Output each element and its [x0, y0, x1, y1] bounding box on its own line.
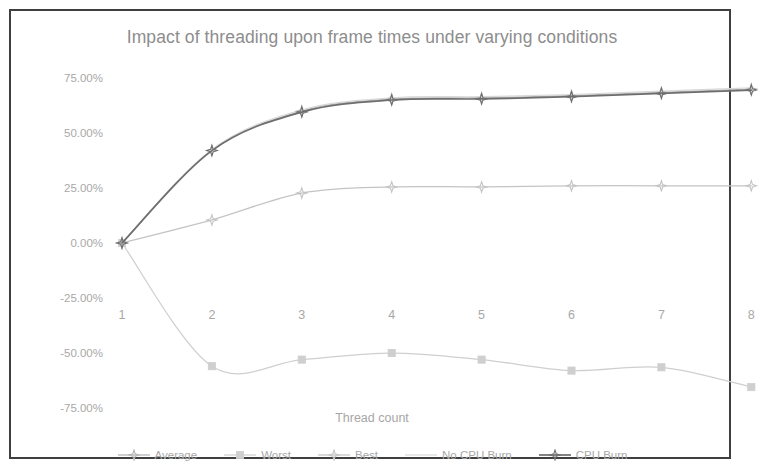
y-axis-tick-label: 50.00% — [47, 127, 103, 139]
page-bottom-strip — [0, 462, 741, 476]
x-axis-tick-label: 1 — [108, 308, 136, 322]
legend-swatch-icon — [223, 449, 257, 461]
x-axis-tick-labels: 12345678 — [111, 308, 731, 328]
y-axis-tick-label: -50.00% — [47, 347, 103, 359]
series-line — [117, 181, 757, 249]
data-point-marker — [568, 367, 575, 374]
legend-label: CPU Burn — [576, 449, 628, 461]
chart-frame: Impact of threading upon frame times und… — [9, 9, 731, 459]
legend-label: Best — [355, 449, 378, 461]
legend-item-cpu-burn[interactable]: CPU Burn — [538, 449, 628, 461]
y-axis-tick-labels: 75.00%50.00%25.00%0.00%-25.00%-50.00%-75… — [41, 11, 103, 476]
legend-item-no-cpu-burn[interactable]: No CPU Burn — [404, 449, 512, 461]
legend-swatch-icon — [317, 449, 351, 461]
legend-swatch-icon — [404, 449, 438, 461]
data-point-marker — [658, 364, 665, 371]
data-point-marker — [388, 349, 395, 356]
legend-item-worst[interactable]: Worst — [223, 449, 291, 461]
legend-swatch-icon — [117, 449, 151, 461]
plot-area: 12345678 — [111, 66, 731, 406]
legend-label: Worst — [261, 449, 291, 461]
y-axis-tick-label: 75.00% — [47, 72, 103, 84]
y-axis-tick-label: -25.00% — [47, 292, 103, 304]
x-axis-tick-label: 2 — [198, 308, 226, 322]
plot-lines — [111, 66, 731, 406]
data-point-marker — [748, 384, 755, 391]
chart-title: Impact of threading upon frame times und… — [11, 27, 733, 48]
data-point-marker — [298, 356, 305, 363]
x-axis-tick-label: 7 — [647, 308, 675, 322]
legend-item-best[interactable]: Best — [317, 449, 378, 461]
x-axis-tick-label: 5 — [468, 308, 496, 322]
x-axis-tick-label: 6 — [558, 308, 586, 322]
y-axis-tick-label: 0.00% — [47, 237, 103, 249]
x-axis-tick-label: 4 — [378, 308, 406, 322]
legend-item-average[interactable]: Average — [117, 449, 198, 461]
data-point-marker — [478, 356, 485, 363]
chart-legend: AverageWorstBestNo CPU BurnCPU Burn — [11, 449, 733, 461]
y-axis-tick-label: 25.00% — [47, 182, 103, 194]
legend-swatch-icon — [538, 449, 572, 461]
x-axis-tick-label: 3 — [288, 308, 316, 322]
x-axis-title: Thread count — [11, 411, 733, 425]
legend-label: No CPU Burn — [442, 449, 512, 461]
data-point-marker — [208, 363, 215, 370]
x-axis-tick-label: 8 — [737, 308, 763, 322]
legend-label: Average — [155, 449, 198, 461]
